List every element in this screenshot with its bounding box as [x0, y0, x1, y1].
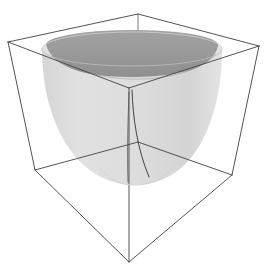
- paraboloid-3d-plot: Paraboloid surface inside a wireframe bo…: [0, 0, 270, 271]
- figure-canvas: Paraboloid surface inside a wireframe bo…: [0, 0, 270, 271]
